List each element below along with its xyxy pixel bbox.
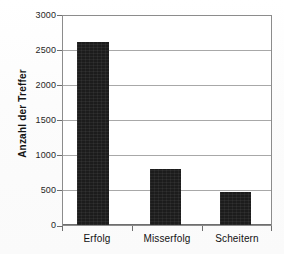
x-axis-label-misserfolg: Misserfolg	[132, 233, 202, 244]
x-tick-mark-1	[132, 226, 133, 231]
bar-chart: Anzahl der Treffer 3000 2500 2000 1500 1…	[0, 0, 284, 254]
bar-scheitern	[220, 192, 251, 225]
y-axis-tick-labels: 3000 2500 2000 1500 1000 500 0	[16, 0, 56, 254]
y-tick-label-0: 0	[22, 221, 56, 230]
y-tick-label-500: 500	[22, 186, 56, 195]
plot-area	[62, 15, 272, 226]
x-axis-label-erfolg: Erfolg	[62, 233, 132, 244]
y-tick-label-3000: 3000	[22, 11, 56, 20]
y-tick-label-1500: 1500	[22, 116, 56, 125]
y-tick-label-2000: 2000	[22, 81, 56, 90]
x-tick-mark-2	[202, 226, 203, 231]
x-axis-label-scheitern: Scheitern	[202, 233, 272, 244]
bar-misserfolg	[150, 169, 181, 225]
x-tick-mark-right	[271, 226, 272, 231]
y-tick-label-2500: 2500	[22, 46, 56, 55]
x-tick-mark-left	[62, 226, 63, 231]
bar-erfolg	[77, 42, 109, 225]
y-tick-label-1000: 1000	[22, 151, 56, 160]
